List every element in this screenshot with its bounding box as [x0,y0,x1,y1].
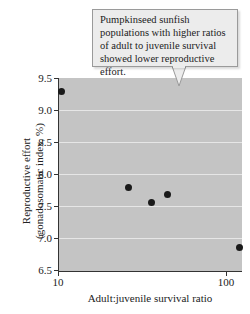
callout-pointer-cover [0,0,250,314]
